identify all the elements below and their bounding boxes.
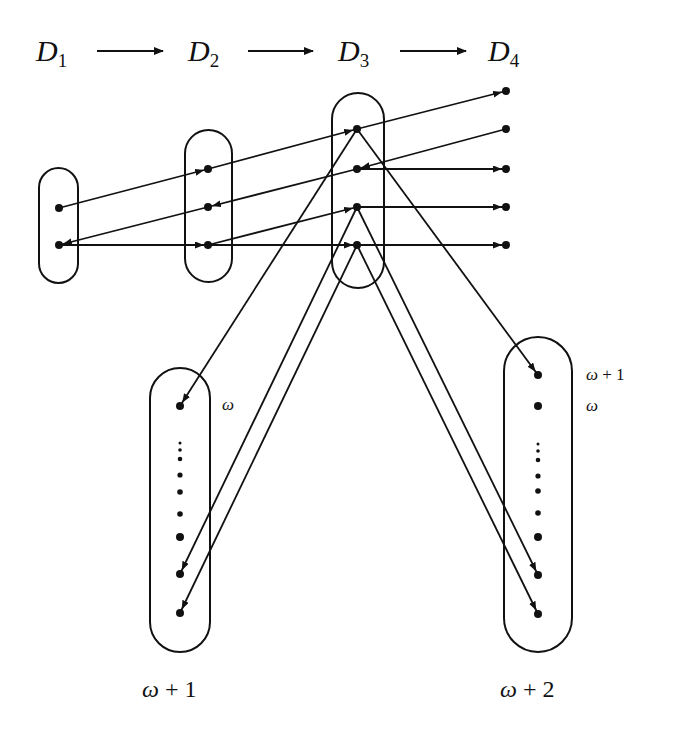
point-d3-0 xyxy=(353,125,361,133)
point-d1-0 xyxy=(55,204,63,212)
point-left-0 xyxy=(176,609,184,617)
point-left-omega xyxy=(176,402,184,410)
container-d3 xyxy=(332,93,384,288)
container-right-set xyxy=(504,337,572,652)
point-right-omega-plus-1 xyxy=(534,371,542,379)
stage-label-d3: D3 xyxy=(338,34,369,72)
point-d2-1 xyxy=(204,203,212,211)
left-set-omega-label: ω xyxy=(222,395,234,415)
point-d4-1 xyxy=(502,125,510,133)
mapping-edges xyxy=(59,91,538,614)
point-d4-3 xyxy=(502,203,510,211)
point-d3-1 xyxy=(353,165,361,173)
right-set-title: ω + 2 xyxy=(500,676,555,703)
point-right-1 xyxy=(534,571,542,579)
point-d2-0 xyxy=(204,165,212,173)
point-right-omega xyxy=(534,402,542,410)
stage-label-d2: D2 xyxy=(188,34,219,72)
stage-label-d4: D4 xyxy=(488,34,519,72)
point-d4-2 xyxy=(502,165,510,173)
point-d4-0 xyxy=(502,87,510,95)
container-d1 xyxy=(39,168,78,283)
left-set-title: ω + 1 xyxy=(142,676,197,703)
point-d3-3 xyxy=(353,241,361,249)
diagram-canvas xyxy=(0,0,676,742)
point-d4-4 xyxy=(502,241,510,249)
point-d2-2 xyxy=(204,241,212,249)
point-right-0 xyxy=(534,610,542,618)
set-containers xyxy=(39,93,572,652)
point-d3-2 xyxy=(353,203,361,211)
right-set-omega-plus-1-label: ω + 1 xyxy=(586,365,625,385)
right-set-omega-label: ω xyxy=(586,396,598,416)
stage-label-d1: D1 xyxy=(36,34,67,72)
point-left-1 xyxy=(176,570,184,578)
point-d1-1 xyxy=(55,241,63,249)
points xyxy=(55,87,542,618)
